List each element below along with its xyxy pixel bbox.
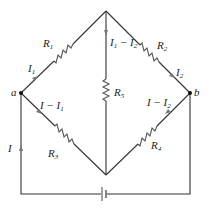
current-i1-label: I1 (27, 62, 35, 76)
r3-label: R3 (47, 147, 59, 161)
node-b-dot (188, 91, 192, 95)
resistor-r1 (54, 44, 73, 63)
node-a-dot (19, 91, 23, 95)
r1-label: R1 (42, 37, 53, 51)
r2-label: R2 (156, 39, 168, 53)
node-a-label: a (11, 86, 17, 98)
resistor-r5 (103, 79, 109, 101)
wheatstone-bridge-diagram: a b R1 R2 R5 R3 R4 I1 I2 I1 − I2 I − I1 … (0, 0, 210, 208)
branch-r2 (106, 11, 190, 93)
r5-label: R5 (113, 86, 125, 100)
arrow-i-icon (19, 145, 23, 151)
current-i-minus-i1-label: I − I1 (39, 99, 64, 113)
arrow-i2-icon (169, 73, 175, 78)
branch-r1 (21, 11, 106, 93)
current-i-minus-i2-label: I − I2 (146, 96, 171, 110)
current-i-label: I (7, 142, 13, 154)
battery-icon (102, 187, 106, 201)
arrow-i1-minus-i2-icon (104, 30, 108, 36)
r4-label: R4 (150, 139, 162, 153)
arrow-i1-icon (32, 76, 38, 81)
current-i2-label: I2 (175, 66, 184, 80)
current-i1-minus-i2-label: I1 − I2 (109, 36, 138, 50)
resistor-r3 (55, 124, 74, 144)
node-b-label: b (194, 86, 200, 98)
